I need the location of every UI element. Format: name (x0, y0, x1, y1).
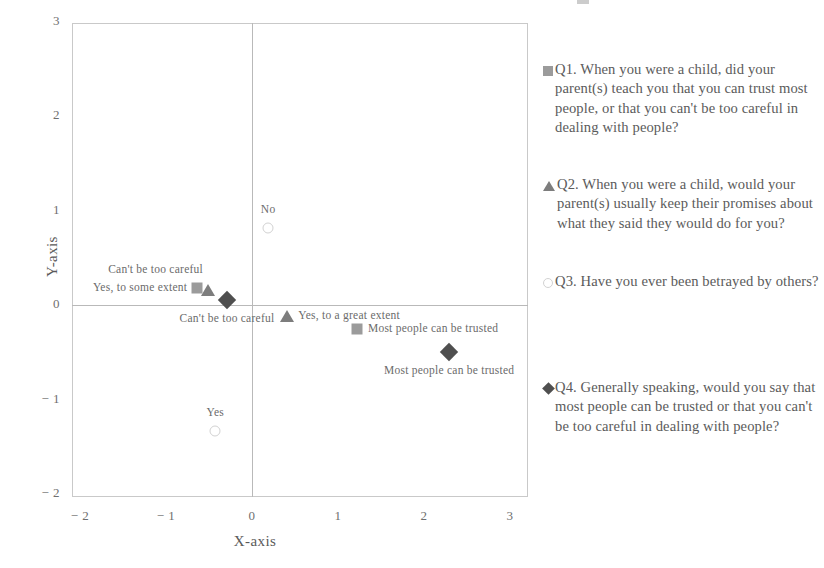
legend-item-label: Q4. Generally speaking, would you say th… (555, 378, 821, 436)
y-tick-label: 2 (26, 107, 60, 123)
data-point-label: Can't be too careful (108, 263, 203, 275)
x-tick-label: 3 (493, 508, 527, 524)
legend-item-label: Q3. Have you ever been betrayed by other… (555, 272, 819, 291)
legend-square-icon (543, 66, 553, 76)
y-tick-label: − 2 (26, 485, 60, 501)
data-point-label: Yes (207, 406, 224, 418)
data-point-square (351, 323, 362, 334)
vertical-zero-line (252, 23, 253, 497)
plot-area: 3210− 1− 2 − 2− 10123 Yes, to some exten… (0, 0, 540, 568)
horizontal-zero-line (72, 305, 528, 306)
legend: Q1. When you were a child, did your pare… (541, 0, 824, 568)
data-point-triangle (201, 284, 215, 296)
data-point-circle (263, 223, 274, 234)
y-tick-label: − 1 (26, 391, 60, 407)
x-tick-label: 2 (407, 508, 441, 524)
data-point-label: No (261, 203, 276, 215)
x-tick-label: − 1 (149, 508, 183, 524)
data-point-label: Yes, to some extent (93, 281, 187, 293)
legend-item-q3[interactable]: Q3. Have you ever been betrayed by other… (543, 272, 821, 291)
legend-item-q4[interactable]: Q4. Generally speaking, would you say th… (543, 378, 821, 436)
legend-item-q2[interactable]: Q2. When you were a child, would your pa… (543, 175, 821, 233)
x-tick-label: 1 (321, 508, 355, 524)
legend-triangle-icon (543, 181, 555, 191)
legend-item-label: Q2. When you were a child, would your pa… (557, 175, 821, 233)
data-point-circle (210, 425, 221, 436)
data-point-label: Can't be too careful (180, 312, 275, 324)
data-point-label: Most people can be trusted (368, 322, 498, 334)
data-point-label: Yes, to a great extent (298, 309, 400, 321)
legend-circle-icon (543, 278, 553, 288)
legend-diamond-icon (542, 382, 555, 395)
plot-frame-border (72, 23, 528, 497)
legend-item-q1[interactable]: Q1. When you were a child, did your pare… (543, 60, 821, 138)
x-tick-label: 0 (235, 508, 269, 524)
x-tick-label: − 2 (63, 508, 97, 524)
y-tick-label: 3 (26, 13, 60, 29)
legend-item-label: Q1. When you were a child, did your pare… (555, 60, 821, 138)
data-point-triangle (280, 310, 294, 322)
x-axis-title: X-axis (180, 533, 330, 550)
y-axis-title: Y-axis (44, 197, 61, 317)
scatter-plot-figure: 3210− 1− 2 − 2− 10123 Yes, to some exten… (0, 0, 824, 568)
data-point-label: Most people can be trusted (384, 364, 514, 376)
